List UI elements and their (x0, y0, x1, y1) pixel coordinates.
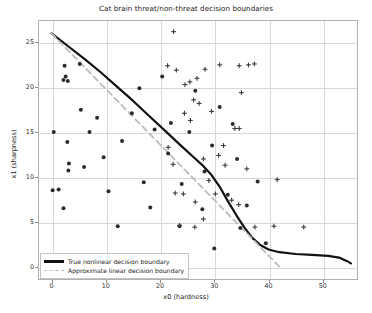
scatter-point-nonthreat (137, 86, 141, 90)
scatter-point-nonthreat (57, 187, 61, 191)
scatter-point-threat (253, 225, 258, 230)
scatter-point-threat (182, 111, 187, 116)
scatter-point-nonthreat (142, 180, 146, 184)
scatter-point-threat (193, 200, 198, 205)
chart-legend: True nonlinear decision boundary Approxi… (40, 253, 189, 279)
chart-data-layer (38, 20, 358, 280)
scatter-point-threat (244, 166, 249, 171)
x-tick-label: 30 (210, 282, 218, 290)
solid-line-swatch-icon (44, 258, 64, 266)
scatter-point-threat (223, 163, 228, 168)
y-tick-label: 10 (22, 173, 34, 181)
scatter-point-nonthreat (107, 189, 111, 193)
true-nonlinear-boundary-line (52, 33, 351, 263)
scatter-point-nonthreat (256, 179, 260, 183)
scatter-point-threat (166, 145, 171, 150)
scatter-point-nonthreat (203, 170, 207, 174)
scatter-point-nonthreat (116, 224, 120, 228)
scatter-point-nonthreat (226, 193, 230, 197)
y-tick-label: 20 (22, 83, 34, 91)
scatter-point-threat (301, 225, 306, 230)
scatter-point-threat (216, 153, 221, 158)
scatter-point-threat (206, 178, 211, 183)
scatter-point-threat (197, 101, 202, 106)
x-tick-label: 50 (319, 282, 327, 290)
scatter-point-threat (188, 118, 193, 123)
scatter-point-threat (237, 126, 242, 131)
scatter-point-threat (237, 63, 242, 68)
dashed-line-swatch-icon (44, 267, 64, 275)
scatter-point-threat (221, 143, 226, 148)
scatter-point-nonthreat (66, 79, 70, 83)
scatter-point-nonthreat (180, 182, 184, 186)
scatter-point-threat (272, 224, 277, 229)
chart-figure: Cat brain threat/non-threat decision bou… (0, 0, 372, 313)
scatter-point-nonthreat (95, 116, 99, 120)
y-axis-label: x1 (sharpness) (10, 104, 18, 204)
scatter-point-nonthreat (148, 205, 152, 209)
scatter-point-nonthreat (120, 139, 124, 143)
y-tick-label: 0 (22, 263, 34, 271)
scatter-point-nonthreat (64, 74, 68, 78)
scatter-point-threat (252, 62, 257, 67)
scatter-point-nonthreat (210, 144, 214, 148)
scatter-point-threat (191, 97, 196, 102)
scatter-point-threat (203, 67, 208, 72)
x-tick-label: 10 (102, 282, 110, 290)
legend-item-true-boundary: True nonlinear decision boundary (44, 257, 184, 266)
scatter-point-threat (171, 29, 176, 34)
y-tick-label: 5 (22, 218, 34, 226)
scatter-point-threat (173, 191, 178, 196)
scatter-point-threat (229, 198, 234, 203)
scatter-point-nonthreat (238, 226, 242, 230)
scatter-point-nonthreat (187, 130, 191, 134)
y-tick-label: 25 (22, 38, 34, 46)
scatter-point-nonthreat (200, 207, 204, 211)
scatter-point-threat (195, 76, 200, 81)
approximate-linear-boundary-line (52, 33, 280, 266)
x-tick-label: 0 (50, 282, 54, 290)
scatter-point-threat (236, 202, 241, 207)
x-tick-label: 40 (264, 282, 272, 290)
legend-label-true-boundary: True nonlinear decision boundary (68, 258, 170, 265)
scatter-point-nonthreat (102, 155, 106, 159)
scatter-point-nonthreat (66, 169, 70, 173)
scatter-point-threat (165, 63, 170, 68)
scatter-point-nonthreat (82, 165, 86, 169)
scatter-point-threat (239, 90, 244, 95)
scatter-point-threat (217, 62, 222, 67)
scatter-point-threat (171, 162, 176, 167)
scatter-point-nonthreat (88, 130, 92, 134)
scatter-point-threat (246, 62, 251, 67)
scatter-point-threat (183, 82, 188, 87)
scatter-point-nonthreat (67, 161, 71, 165)
scatter-point-nonthreat (231, 122, 235, 126)
scatter-point-nonthreat (160, 74, 164, 78)
scatter-point-threat (201, 157, 206, 162)
scatter-point-threat (174, 68, 179, 73)
scatter-point-threat (213, 192, 218, 197)
scatter-point-nonthreat (63, 64, 67, 68)
scatter-point-threat (187, 79, 192, 84)
chart-title: Cat brain threat/non-threat decision bou… (0, 4, 372, 13)
scatter-point-threat (232, 126, 237, 131)
scatter-point-nonthreat (166, 152, 170, 156)
scatter-point-nonthreat (52, 130, 56, 134)
y-tick-label: 15 (22, 128, 34, 136)
scatter-point-nonthreat (218, 105, 222, 109)
scatter-point-nonthreat (65, 140, 69, 144)
scatter-point-nonthreat (61, 78, 65, 82)
scatter-point-nonthreat (235, 157, 239, 161)
scatter-point-nonthreat (78, 62, 82, 66)
scatter-point-nonthreat (79, 108, 83, 112)
scatter-point-nonthreat (51, 188, 55, 192)
scatter-point-nonthreat (212, 247, 216, 251)
scatter-point-threat (275, 177, 280, 182)
x-tick-label: 20 (156, 282, 164, 290)
legend-item-linear-boundary: Approximate linear decision boundary (44, 266, 184, 275)
scatter-point-threat (201, 217, 206, 222)
scatter-point-nonthreat (245, 204, 249, 208)
x-axis-label: x0 (hardness) (0, 293, 372, 301)
scatter-point-nonthreat (264, 241, 268, 245)
scatter-point-nonthreat (61, 206, 65, 210)
